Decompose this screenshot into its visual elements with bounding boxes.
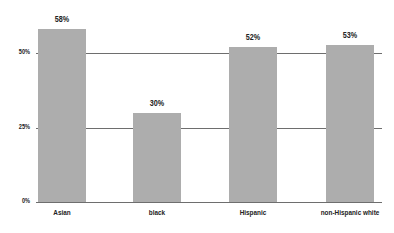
category-label-hispanic: Hispanic <box>221 208 285 217</box>
bar-chart: 50% 25% 0% 58% 30% 52% 53% Asian black H… <box>0 0 394 233</box>
ytick-label-50: 50% <box>9 48 30 55</box>
baseline-0 <box>36 202 382 203</box>
bar-hispanic <box>229 47 277 202</box>
value-label-black: 30% <box>138 98 176 108</box>
bar-black <box>133 113 181 202</box>
category-label-asian: Asian <box>30 208 94 217</box>
bar-asian <box>38 29 86 202</box>
bar-non-hispanic-white <box>326 45 374 202</box>
ytick-label-0: 0% <box>9 197 30 204</box>
category-label-non-hispanic-white: non-Hispanic white <box>310 208 390 217</box>
value-label-asian: 58% <box>43 14 81 24</box>
category-label-black: black <box>125 208 189 217</box>
ytick-label-25: 25% <box>9 123 30 130</box>
value-label-non-hispanic-white: 53% <box>331 30 369 40</box>
value-label-hispanic: 52% <box>234 32 272 42</box>
